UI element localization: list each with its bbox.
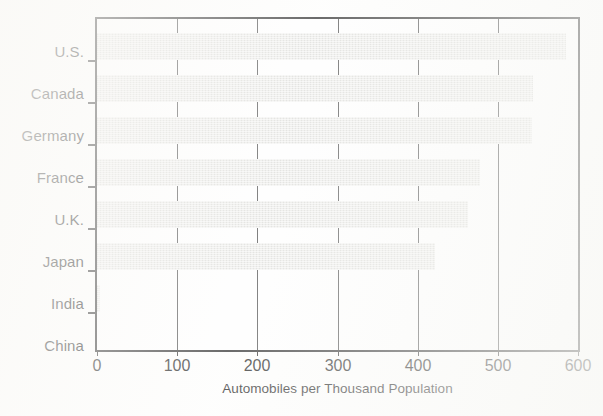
y-axis-label-0: U.S. (0, 44, 84, 60)
x-tick-0 (97, 350, 98, 356)
y-axis-label-6: India (0, 296, 84, 312)
x-axis-title: Automobiles per Thousand Population (95, 381, 580, 396)
x-tick-200 (257, 350, 258, 356)
chart-figure: U.S. Canada Germany France U.K. Japan In… (0, 0, 603, 416)
bar-us (97, 33, 566, 60)
bar-germany (97, 117, 532, 144)
y-axis-label-7: China (0, 338, 84, 354)
y-tick-0 (88, 60, 97, 62)
bar-france (97, 159, 480, 186)
x-axis-ticklabel-0: 0 (67, 357, 127, 375)
y-axis-label-5: Japan (0, 254, 84, 270)
y-tick-2 (88, 144, 97, 146)
y-tick-1 (88, 102, 97, 104)
x-axis-ticklabel-4: 400 (388, 357, 448, 375)
plot-area (95, 17, 580, 352)
x-tick-300 (338, 350, 339, 356)
y-axis-label-1: Canada (0, 86, 84, 102)
y-tick-5 (88, 270, 97, 272)
x-axis-ticklabel-1: 100 (147, 357, 207, 375)
x-tick-500 (498, 350, 499, 356)
y-axis-labels: U.S. Canada Germany France U.K. Japan In… (0, 17, 95, 352)
y-tick-4 (88, 228, 97, 230)
y-axis-label-2: Germany (0, 128, 84, 144)
x-tick-400 (418, 350, 419, 356)
y-tick-3 (88, 186, 97, 188)
y-axis-label-3: France (0, 170, 84, 186)
x-axis-ticklabel-5: 500 (468, 357, 528, 375)
x-tick-100 (177, 350, 178, 356)
gridline-500 (498, 19, 499, 350)
bar-india (97, 285, 100, 312)
y-axis-label-4: U.K. (0, 212, 84, 228)
bar-japan (97, 243, 435, 270)
x-axis-ticklabel-3: 300 (308, 357, 368, 375)
y-tick-6 (88, 312, 97, 314)
x-axis-ticklabel-6: 600 (548, 357, 603, 375)
bar-uk (97, 201, 468, 228)
x-axis-ticklabel-2: 200 (227, 357, 287, 375)
bar-canada (97, 75, 533, 102)
x-tick-600 (578, 350, 579, 356)
